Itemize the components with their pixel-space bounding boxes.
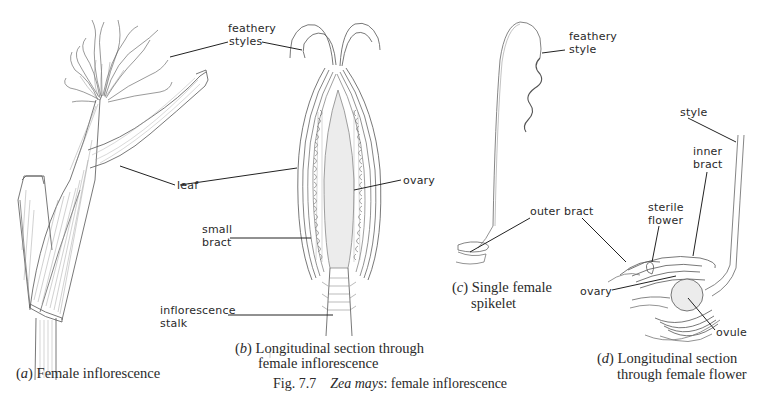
- caption-panel-c-line2: spikelet: [471, 296, 516, 311]
- label-inflorescence-stalk-line2: stalk: [160, 317, 187, 330]
- label-inner-bract-line1: inner: [693, 145, 722, 158]
- label-small-bract-line1: small: [202, 223, 232, 236]
- label-feathery-styles-line2: styles: [229, 35, 262, 48]
- label-ovary-d: ovary: [580, 285, 612, 298]
- label-outer-bract: outer bract: [530, 205, 594, 218]
- label-sterile-flower-line1: sterile: [648, 201, 684, 214]
- caption-panel-c: (c) Single female: [452, 280, 552, 295]
- panel-b-drawing: [270, 23, 381, 358]
- label-small-bract-line2: bract: [202, 236, 232, 249]
- panel-d-drawing: [608, 135, 744, 342]
- label-feathery-styles-line1: feathery: [228, 22, 276, 35]
- caption-panel-d-line2: through female flower: [617, 367, 747, 382]
- label-inner-bract-line2: bract: [693, 158, 723, 171]
- label-leaf: leaf: [177, 179, 198, 192]
- panel-c-leaders: [470, 50, 626, 262]
- panel-c-drawing: [456, 22, 542, 264]
- figure-title: Fig. 7.7 Zea mays: female inflorescence: [273, 376, 507, 392]
- label-sterile-flower-line2: flower: [648, 214, 683, 227]
- label-ovary-b: ovary: [403, 174, 435, 187]
- label-inflorescence-stalk-line1: inflorescence: [160, 304, 236, 317]
- label-feathery-style-line2: style: [569, 43, 596, 56]
- label-style: style: [680, 106, 707, 119]
- caption-panel-b: (b) Longitudinal section through: [235, 341, 424, 356]
- panel-b-leaders: [180, 42, 401, 315]
- label-feathery-style-line1: feathery: [569, 30, 617, 43]
- caption-panel-d: (d) Longitudinal section: [597, 351, 737, 366]
- label-ovule: ovule: [716, 326, 747, 339]
- caption-panel-a: (a) Female inflorescence: [16, 366, 160, 381]
- caption-panel-b-line2: female inflorescence: [258, 356, 378, 371]
